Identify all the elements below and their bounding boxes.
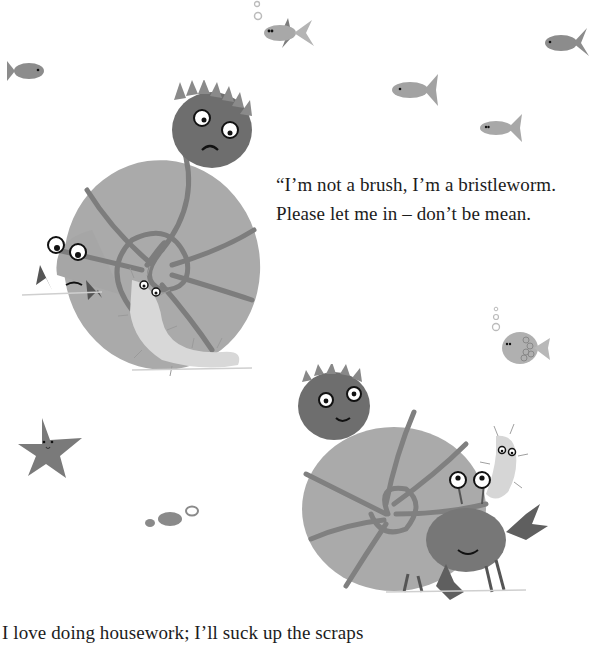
verse-top-line-2: Please let me in – don’t be mean. bbox=[276, 199, 556, 228]
verse-top-line-1: “I’m not a brush, I’m a bristleworm. bbox=[276, 170, 556, 199]
hermit-crab-shell-illustration-top bbox=[22, 80, 262, 380]
fish-top-center-icon bbox=[260, 12, 316, 50]
starfish-icon bbox=[16, 416, 84, 480]
fish-top-right-icon bbox=[543, 24, 591, 58]
verse-bottom-line-1: I love doing housework; I’ll suck up the… bbox=[2, 618, 363, 647]
pebbles-icon bbox=[142, 505, 204, 531]
fish-right-lower-icon bbox=[478, 110, 524, 142]
verse-top: “I’m not a brush, I’m a bristleworm. Ple… bbox=[276, 170, 556, 228]
fish-mid-right-icon bbox=[390, 70, 442, 106]
verse-bottom: I love doing housework; I’ll suck up the… bbox=[2, 618, 363, 647]
hermit-crab-shell-illustration-bottom bbox=[286, 364, 556, 604]
